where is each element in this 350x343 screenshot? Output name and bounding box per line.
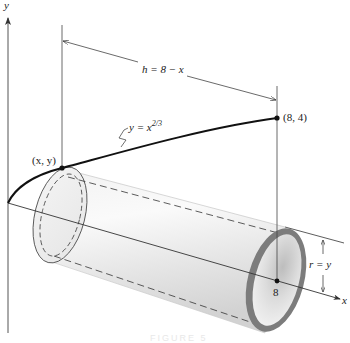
end-point-marker	[274, 115, 279, 120]
y-axis-label: y	[3, 0, 9, 11]
curve-eq-exponent: 2/3	[152, 119, 162, 128]
height-label: h = 8 − x	[142, 63, 184, 75]
curve-eq-equals: =	[134, 121, 147, 133]
figure-caption: FIGURE 5	[150, 333, 208, 343]
end-point-label: (8, 4)	[283, 111, 307, 124]
x-tick-marker	[275, 279, 280, 284]
general-point-marker	[59, 165, 64, 170]
radius-label: r = y	[309, 258, 331, 270]
shell-method-diagram: y x h = 8 − x y = x2/3	[0, 0, 350, 343]
x-tick-label: 8	[273, 286, 279, 298]
svg-text:y = x2/3: y = x2/3	[128, 119, 162, 133]
x-axis-label: x	[341, 294, 347, 306]
general-point-label: (x, y)	[32, 154, 56, 167]
